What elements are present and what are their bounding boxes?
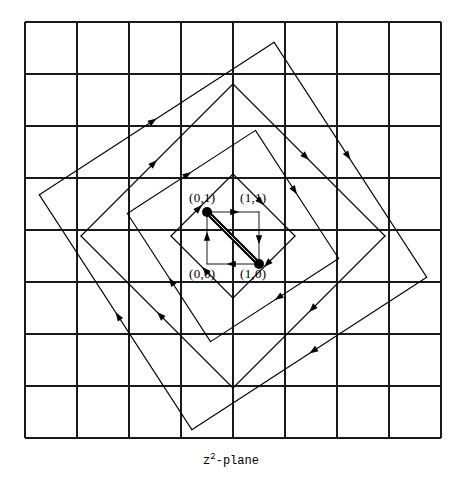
caption-suffix: -plane xyxy=(216,454,259,468)
arrowhead xyxy=(116,312,124,321)
label-1-1: (1,1) xyxy=(240,190,266,206)
label-0-0: (0,0) xyxy=(189,266,215,282)
endpoint-dot-0-1 xyxy=(202,207,212,217)
arrowhead xyxy=(275,292,284,300)
figure-z-squared-plane: (0,1)(1,1)(0,0)(1,0) z2-plane xyxy=(0,0,462,482)
arrowhead xyxy=(227,261,236,267)
arrowhead xyxy=(147,119,156,127)
arrowhead xyxy=(343,150,351,159)
arrowhead xyxy=(204,232,210,241)
arrowhead xyxy=(230,209,239,215)
arrowhead xyxy=(309,346,318,354)
arrowhead xyxy=(256,235,262,244)
figure-caption: z2-plane xyxy=(0,452,462,468)
diagram-canvas xyxy=(0,0,462,482)
arrowhead xyxy=(289,185,297,194)
label-0-1: (0,1) xyxy=(189,190,215,206)
label-1-0: (1,0) xyxy=(240,266,266,282)
